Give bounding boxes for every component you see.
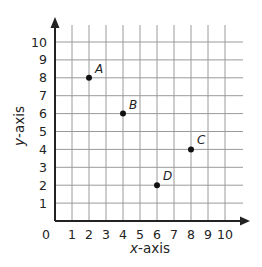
point-label: A [94, 62, 103, 76]
y-axis-label: y-axis [11, 106, 27, 147]
point-label: D [163, 169, 172, 183]
point-marker-icon [86, 75, 92, 81]
point-marker-icon [120, 111, 126, 117]
x-tick-label: 10 [217, 227, 233, 242]
point-marker-icon [188, 146, 194, 152]
x-tick-label: 2 [85, 227, 93, 242]
y-tick-label: 1 [39, 196, 47, 211]
y-tick-label: 10 [31, 35, 47, 50]
x-tick-label: 7 [170, 227, 178, 242]
axes [51, 17, 251, 226]
y-tick-label: 7 [39, 88, 47, 103]
x-tick-label: 1 [68, 227, 76, 242]
point-marker-icon [154, 182, 160, 188]
x-tick-label: 4 [119, 227, 127, 242]
coordinate-grid-chart: 12345678910 12345678910 0 ABCD x-axis y-… [0, 0, 262, 267]
y-axis-arrow-icon [51, 17, 60, 28]
y-tick-label: 8 [39, 70, 47, 85]
y-tick-label: 9 [39, 52, 47, 67]
y-tick-labels: 12345678910 [31, 35, 47, 211]
y-tick-label: 3 [39, 160, 47, 175]
y-tick-label: 6 [39, 106, 47, 121]
x-axis-label: x-axis [129, 240, 170, 256]
x-tick-label: 8 [187, 227, 195, 242]
y-tick-label: 5 [39, 124, 47, 139]
y-tick-label: 4 [39, 142, 47, 157]
grid-lines [55, 25, 243, 221]
point-label: C [197, 133, 206, 147]
origin-label: 0 [42, 227, 50, 242]
point-label: B [129, 98, 137, 112]
x-tick-label: 9 [204, 227, 212, 242]
data-points: ABCD [86, 62, 206, 188]
y-tick-label: 2 [39, 178, 47, 193]
x-axis-arrow-icon [240, 217, 250, 226]
x-tick-label: 3 [102, 227, 110, 242]
